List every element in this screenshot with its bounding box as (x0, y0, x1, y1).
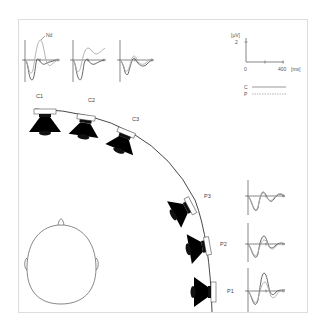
y-tick-label: 2 (235, 39, 238, 45)
waveform-p3 (245, 180, 285, 215)
nd-annotation: Nd (46, 32, 53, 38)
speaker-label-c2: C2 (88, 97, 95, 103)
waveform-c1: Nd (22, 32, 60, 82)
speaker-label-c3: C3 (132, 116, 139, 122)
waveform-c2 (70, 40, 106, 82)
speaker-p3 (164, 191, 200, 229)
nose-icon (58, 219, 64, 225)
x-start-label: 0 (244, 66, 247, 72)
speaker-label-p2: P2 (220, 241, 227, 247)
scale-bar: [µV] 2 0 400 [ms] (231, 32, 301, 72)
head-outline (25, 219, 99, 304)
speaker-p1 (191, 277, 217, 307)
legend-c-label: C (244, 84, 248, 90)
speaker-c1 (29, 109, 61, 136)
speaker-c3 (104, 125, 141, 159)
speaker-label-p1: P1 (227, 288, 234, 294)
speaker-c2 (68, 113, 101, 141)
waveform-p2 (245, 223, 285, 262)
diagram-canvas: Nd [µV] 2 0 400 [ms] C P (0, 0, 326, 328)
legend-p-label: P (244, 91, 248, 97)
waveform-c3 (117, 40, 154, 82)
speaker-label-c1: C1 (36, 93, 43, 99)
speaker-label-p3: P3 (204, 193, 211, 199)
x-unit-label: [ms] (291, 66, 301, 72)
x-end-label: 400 (278, 66, 287, 72)
legend: C P (244, 84, 286, 97)
waveform-p1 (245, 268, 285, 312)
y-unit-label: [µV] (231, 32, 241, 38)
